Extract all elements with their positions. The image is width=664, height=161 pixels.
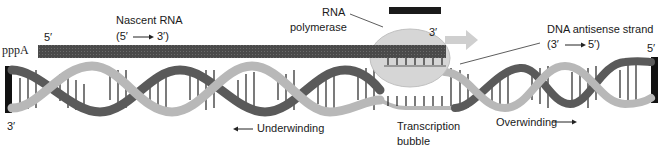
antisense-direction-end: 5′) — [588, 38, 600, 51]
nascent-rna-direction-end: 3′) — [157, 30, 169, 43]
antisense-direction-arrow-icon — [565, 43, 586, 48]
transcription-bubble-label-line2: bubble — [397, 135, 430, 148]
nascent-rna-label: Nascent RNA — [116, 14, 183, 27]
pppa-label: pppA — [2, 44, 29, 57]
polymerase-direction-arrow-icon — [445, 30, 478, 50]
overwinding-label: Overwinding — [496, 116, 557, 129]
dna-antisense-strand-label: DNA antisense strand — [547, 23, 653, 36]
dna-left-3prime-label: 3′ — [7, 120, 15, 133]
antisense-direction-start: (3′ — [547, 38, 559, 51]
nascent-rna-strand — [38, 45, 446, 58]
rna-polymerase-leader-line — [350, 14, 383, 27]
underwinding-label: Underwinding — [257, 122, 324, 135]
nascent-rna-direction-start: (5′ — [116, 30, 128, 43]
rna-5prime-label: 5′ — [44, 31, 52, 44]
rna-polymerase-label-line2: polymerase — [290, 21, 347, 34]
rna-3prime-label: 3′ — [429, 26, 437, 39]
left-helix — [12, 66, 380, 112]
antisense-strand-leader-line — [460, 43, 540, 64]
polymerase-top-bar — [389, 7, 441, 14]
rna-polymerase-label-line1: RNA — [322, 6, 345, 19]
transcription-bubble-label-line1: Transcription — [397, 120, 460, 133]
nascent-rna-direction-arrow-icon — [133, 35, 154, 40]
dna-right-5prime-label: 5′ — [647, 42, 655, 55]
underwinding-arrow-icon — [233, 127, 253, 132]
